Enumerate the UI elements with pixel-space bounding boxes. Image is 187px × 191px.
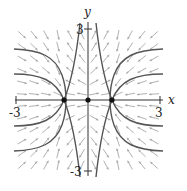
direction-arrow (92, 161, 97, 170)
direction-arrow (79, 55, 85, 63)
direction-arrow (91, 138, 97, 146)
direction-arrow (31, 161, 37, 169)
direction-arrow (104, 161, 109, 170)
direction-arrow (17, 81, 27, 84)
direction-arrow (55, 78, 61, 86)
direction-arrow (67, 55, 73, 63)
direction-arrow (17, 93, 27, 95)
direction-arrow (91, 149, 96, 158)
direction-arrow (30, 68, 39, 73)
direction-arrow (127, 149, 132, 157)
y-tick-label-3: 3 (76, 23, 84, 37)
direction-arrow (150, 56, 159, 61)
direction-arrow (128, 161, 133, 170)
direction-arrow (57, 160, 60, 170)
direction-arrow (149, 68, 158, 72)
direction-arrow (57, 42, 60, 52)
direction-arrow (17, 127, 26, 131)
direction-arrow (18, 139, 27, 144)
direction-arrow (42, 67, 50, 73)
x-axis-label: x (168, 93, 175, 107)
direction-arrow (29, 104, 39, 106)
direction-arrow (116, 42, 119, 52)
direction-arrow (79, 138, 85, 146)
equilibrium-point (85, 97, 90, 102)
direction-arrow (29, 116, 38, 120)
direction-arrow (126, 126, 134, 132)
direction-arrow (17, 68, 26, 72)
direction-arrow (67, 42, 72, 50)
direction-arrow (18, 162, 25, 169)
direction-arrow (30, 55, 38, 61)
direction-arrow (116, 160, 119, 170)
direction-arrow (138, 43, 145, 50)
direction-arrow (77, 105, 87, 108)
direction-arrow (103, 149, 108, 157)
direction-arrow (116, 137, 120, 147)
direction-arrow (137, 116, 146, 120)
direction-arrow (150, 31, 157, 38)
direction-arrow (138, 55, 146, 61)
direction-arrow (31, 31, 37, 39)
direction-arrow (30, 127, 39, 132)
direction-arrow (67, 149, 72, 157)
direction-arrow (44, 30, 49, 39)
direction-arrow (149, 127, 158, 131)
direction-arrow (91, 55, 97, 63)
direction-arrow (78, 67, 85, 74)
x-tick-label-neg3: -3 (9, 106, 21, 120)
direction-arrow (57, 30, 60, 40)
direction-arrow (115, 114, 121, 122)
direction-arrow (90, 126, 97, 133)
direction-arrow (57, 148, 60, 158)
direction-arrow (79, 149, 84, 158)
direction-arrow (79, 42, 84, 51)
x-tick-label-3: 3 (155, 106, 163, 120)
direction-arrow (137, 93, 147, 95)
direction-arrow (30, 43, 37, 50)
direction-arrow (78, 115, 87, 120)
direction-arrow (68, 30, 73, 39)
direction-arrow (55, 114, 61, 122)
direction-arrow (56, 137, 60, 147)
direction-arrow (89, 105, 99, 108)
trajectory-curve (112, 74, 163, 100)
direction-arrow (125, 93, 135, 96)
phase-portrait: x y -3 3 3 -3 (0, 0, 187, 191)
direction-arrow (30, 150, 37, 157)
direction-arrow (138, 68, 147, 73)
direction-arrow (91, 42, 96, 51)
direction-arrow (128, 30, 133, 39)
direction-arrow (138, 138, 146, 144)
direction-arrow (150, 162, 157, 169)
direction-arrow (43, 42, 48, 50)
y-tick-label-neg3: -3 (70, 165, 82, 179)
direction-arrow (116, 30, 119, 40)
direction-arrow (127, 42, 132, 50)
direction-arrow (139, 31, 145, 39)
direction-arrow (41, 104, 51, 107)
direction-arrow (116, 148, 119, 158)
direction-arrow (18, 56, 27, 61)
direction-arrow (104, 30, 109, 39)
direction-arrow (56, 54, 60, 64)
direction-arrow (90, 115, 99, 120)
direction-arrow (90, 67, 97, 74)
direction-arrow (30, 138, 38, 144)
direction-arrow (43, 149, 48, 157)
direction-arrow (103, 138, 109, 146)
direction-arrow (78, 80, 87, 85)
direction-arrow (116, 54, 120, 64)
direction-arrow (89, 92, 99, 95)
direction-arrow (29, 81, 38, 85)
equilibrium-point (109, 97, 114, 102)
direction-arrow (149, 81, 159, 84)
direction-arrow (125, 104, 135, 107)
direction-arrow (41, 93, 51, 96)
direction-arrow (150, 139, 159, 144)
equilibrium-point (61, 97, 66, 102)
direction-arrow (92, 30, 97, 39)
direction-arrow (137, 104, 147, 106)
direction-arrow (18, 31, 25, 38)
direction-arrow (90, 80, 99, 85)
